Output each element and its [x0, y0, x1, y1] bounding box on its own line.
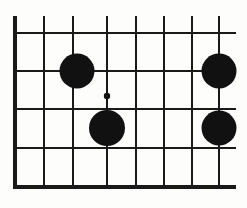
black-stone-lower-left[interactable] — [89, 110, 125, 146]
black-stone-upper-right[interactable] — [202, 54, 237, 89]
stone-group — [60, 54, 237, 147]
grid-vertical-lines — [15, 16, 219, 187]
grid-horizontal-lines — [13, 33, 236, 187]
star-point-group — [104, 93, 110, 99]
go-board-canvas[interactable] — [0, 0, 247, 208]
black-stone-upper-left[interactable] — [60, 54, 95, 89]
go-board-diagram — [0, 0, 247, 208]
star-point-hoshi-icon — [104, 93, 110, 99]
black-stone-lower-right[interactable] — [202, 111, 237, 146]
